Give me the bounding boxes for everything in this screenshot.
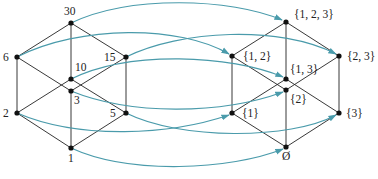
node-6 <box>14 54 19 59</box>
label-s3: {3} <box>346 107 363 119</box>
label-10: 10 <box>75 61 87 73</box>
node-15 <box>123 54 128 59</box>
node-s3 <box>336 110 341 115</box>
label-3: 3 <box>74 94 80 106</box>
node-s123 <box>283 19 288 24</box>
node-3 <box>68 88 73 93</box>
right-lattice-edges <box>232 22 339 147</box>
label-2: 2 <box>3 107 9 119</box>
label-s0: Ø <box>282 150 290 162</box>
left-lattice-edges <box>17 23 126 148</box>
label-15: 15 <box>104 51 116 63</box>
arrow-2-to-1 <box>17 113 229 132</box>
label-6: 6 <box>3 51 9 63</box>
node-s13 <box>283 76 288 81</box>
diagram-svg: 30 6 15 10 3 2 5 1 {1, 2, 3} {1, 2} {2, … <box>0 0 378 179</box>
node-s1 <box>229 110 234 115</box>
label-s23: {2, 3} <box>347 50 375 63</box>
node-s23 <box>336 53 341 58</box>
node-2 <box>14 110 19 115</box>
arrow-30-to-123 <box>71 3 282 23</box>
label-s123: {1, 2, 3} <box>294 8 334 21</box>
node-s12 <box>229 53 234 58</box>
lattice-diagram: 30 6 15 10 3 2 5 1 {1, 2, 3} {1, 2} {2, … <box>0 0 378 179</box>
label-30: 30 <box>64 5 76 17</box>
node-s0 <box>283 144 288 149</box>
label-s2: {2} <box>290 93 307 105</box>
node-s2 <box>283 87 288 92</box>
label-s12: {1, 2} <box>243 50 271 63</box>
arrow-1-to-empty <box>71 148 283 167</box>
right-lattice-labels: {1, 2, 3} {1, 2} {2, 3} {1, 3} {2} {1} {… <box>242 8 375 162</box>
label-s13: {1, 3} <box>290 63 318 76</box>
node-1 <box>68 145 73 150</box>
node-5 <box>123 110 128 115</box>
node-10 <box>68 76 73 81</box>
arrow-6-to-12 <box>17 33 229 57</box>
label-s1: {1} <box>242 107 259 119</box>
label-5: 5 <box>110 107 116 119</box>
label-1: 1 <box>68 152 74 164</box>
node-30 <box>68 20 73 25</box>
